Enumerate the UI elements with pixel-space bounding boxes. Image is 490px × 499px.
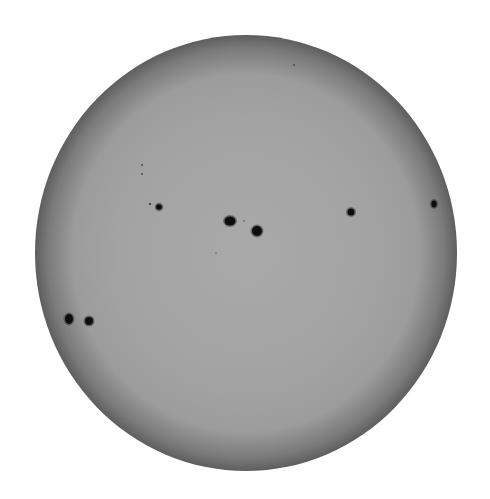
sunspot-spot-right — [348, 209, 355, 216]
solar-disk-image — [0, 0, 490, 499]
pore — [141, 173, 143, 175]
sunspot-group-center-b — [252, 226, 262, 236]
pore — [215, 252, 216, 253]
sunspot-group-center-a — [225, 217, 236, 226]
pore — [149, 203, 151, 205]
pore — [293, 64, 295, 66]
pore — [141, 164, 143, 166]
sunspot-group-left-b — [85, 317, 93, 325]
sun-disk — [35, 35, 457, 471]
pore — [243, 220, 245, 222]
sunspot-spot-far-right — [431, 201, 436, 208]
sunspot-group-left-a — [65, 314, 73, 324]
sunspot-spot-upper-left — [156, 204, 162, 210]
